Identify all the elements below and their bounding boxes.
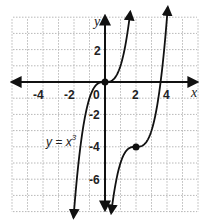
x-tick-neg2: -2	[64, 88, 75, 102]
curve-translated-cubic	[111, 7, 168, 213]
origin-label: 0	[93, 88, 100, 102]
cubic-function-graph: -4 -2 0 2 4 2 -2 -4 -6 x y y = x3	[0, 0, 205, 221]
equation-label: y = x3	[45, 133, 77, 149]
x-tick-neg4: -4	[33, 88, 44, 102]
x-tick-4: 4	[163, 88, 170, 102]
y-axis-label: y	[92, 14, 101, 29]
x-axis-label: x	[190, 85, 198, 100]
x-tick-2: 2	[132, 88, 139, 102]
y-tick-neg6: -6	[89, 173, 100, 187]
origin-point	[102, 79, 109, 86]
translated-center-point	[133, 144, 140, 151]
equation-base: y = x	[45, 135, 73, 149]
equation-exponent: 3	[72, 133, 77, 142]
y-tick-neg4: -4	[89, 140, 100, 154]
y-tick-2: 2	[94, 44, 101, 58]
y-tick-neg2: -2	[89, 108, 100, 122]
